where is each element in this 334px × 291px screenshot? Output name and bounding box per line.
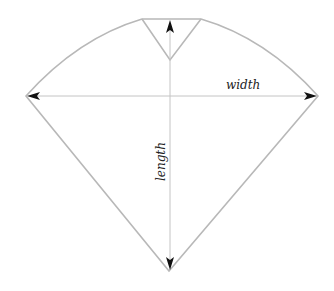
length-label: length [154, 142, 168, 181]
width-label: width [226, 78, 260, 92]
pattern-diagram: width length [0, 0, 334, 291]
